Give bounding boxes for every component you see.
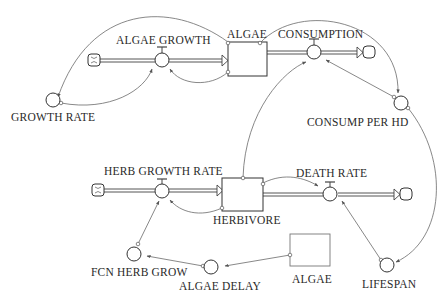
- aux-algae-delay[interactable]: [204, 260, 218, 274]
- label-algae-growth: ALGAE GROWTH: [116, 34, 211, 46]
- cloud-icon: [92, 184, 104, 196]
- aux-fcn-herb-grow[interactable]: [127, 247, 141, 261]
- stock-herbivore[interactable]: [222, 178, 263, 211]
- valve-algae-growth[interactable]: [155, 47, 169, 67]
- label-herbivore: HERBIVORE: [213, 214, 281, 226]
- label-lifespan: LIFESPAN: [362, 278, 417, 290]
- aux-consump-per-hd[interactable]: [394, 96, 408, 110]
- label-fcn-herb-grow: FCN HERB GROW: [91, 266, 188, 278]
- valve-consumption[interactable]: [307, 39, 321, 59]
- stock-flow-diagram: ALGAE GROWTH ALGAE CONSUMPTION GROWTH RA…: [0, 0, 447, 299]
- stock-algae-ghost[interactable]: [290, 234, 330, 266]
- aux-lifespan[interactable]: [380, 258, 394, 272]
- stock-algae[interactable]: [228, 42, 267, 76]
- label-growth-rate: GROWTH RATE: [11, 111, 95, 123]
- cloud-icon: [363, 46, 375, 58]
- cloud-icon: [400, 188, 412, 200]
- label-consumption: CONSUMPTION: [278, 28, 364, 40]
- label-algae: ALGAE: [227, 28, 267, 40]
- label-algae-delay: ALGAE DELAY: [179, 280, 261, 292]
- valve-death-rate[interactable]: [323, 182, 337, 201]
- cloud-icon: [88, 54, 100, 66]
- label-consump-per-hd: CONSUMP PER HD: [307, 116, 408, 128]
- label-herb-growth-rate: HERB GROWTH RATE: [104, 165, 223, 177]
- label-death-rate: DEATH RATE: [296, 167, 367, 179]
- valve-herb-growth-rate[interactable]: [155, 179, 169, 198]
- label-algae-ghost: ALGAE: [292, 273, 332, 285]
- aux-growth-rate[interactable]: [46, 93, 60, 107]
